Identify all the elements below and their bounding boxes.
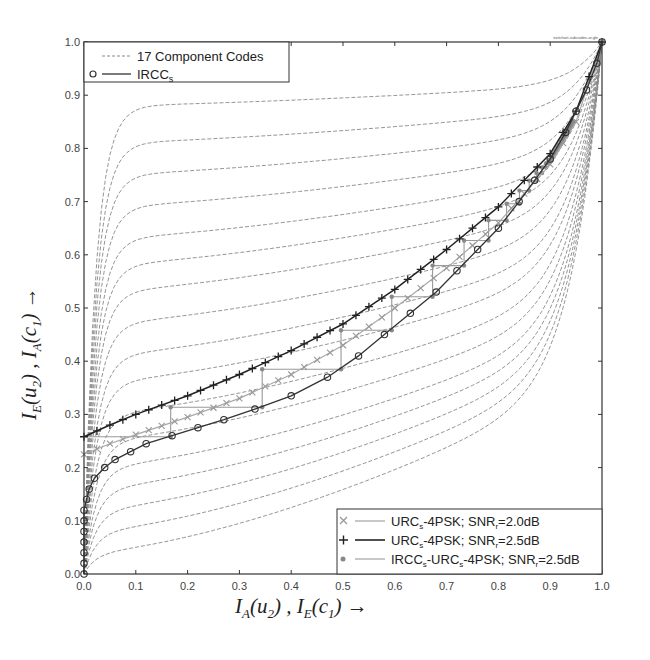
x-tick-label: 1.0 (594, 580, 609, 592)
x-tick-label: 0.9 (543, 580, 558, 592)
x-tick-label: 0.2 (180, 580, 195, 592)
y-tick-label: 0.0 (65, 568, 80, 580)
y-axis-ticks: 0.00.10.20.30.40.50.60.70.80.91.0 (65, 36, 602, 580)
x-tick-label: 0.1 (128, 580, 143, 592)
y-tick-label: 0.9 (65, 89, 80, 101)
decoding-trajectory (84, 119, 576, 439)
plot-frame (84, 42, 602, 574)
legend-urc-2.0db: URCs-4PSK; SNRr=2.0dB (391, 514, 540, 531)
y-tick-label: 0.3 (65, 408, 80, 420)
x-tick-label: 0.7 (439, 580, 454, 592)
legend-urc-2.5db: URCs-4PSK; SNRr=2.5dB (391, 533, 540, 550)
corner-note: exitchart-subcodes-ar.gle (553, 35, 598, 40)
legend-top: 17 Component Codes IRCCs (84, 42, 289, 84)
urc-2.0db-curve (81, 39, 605, 457)
y-tick-label: 0.5 (65, 302, 80, 314)
x-axis-label: IA(u2) , IE(c1) → (234, 594, 368, 621)
y-tick-label: 0.2 (65, 462, 80, 474)
ircc-curve (81, 39, 605, 577)
x-tick-label: 0.5 (335, 580, 350, 592)
x-tick-label: 0.3 (232, 580, 247, 592)
y-tick-label: 1.0 (65, 36, 80, 48)
y-tick-label: 0.8 (65, 142, 80, 154)
legend-bottom: URCs-4PSK; SNRr=2.0dB URCs-4PSK; SNRr=2.… (337, 509, 602, 574)
x-tick-label: 0.6 (387, 580, 402, 592)
x-tick-label: 0.8 (491, 580, 506, 592)
legend-component-codes: 17 Component Codes (137, 49, 264, 64)
y-tick-label: 0.4 (65, 355, 80, 367)
y-tick-label: 0.1 (65, 515, 80, 527)
y-axis-label: IE(u2) , IA(c1) → (17, 287, 44, 421)
legend-ircc: IRCC (137, 67, 169, 82)
component-code-curves (84, 42, 602, 574)
svg-text:IRCCs: IRCCs (137, 67, 174, 84)
exit-chart: 0.00.10.20.30.40.50.60.70.80.91.0 0.00.1… (0, 0, 650, 660)
legend-trajectory: IRCCs-URCs-4PSK; SNRr=2.5dB (391, 552, 580, 569)
y-tick-label: 0.6 (65, 249, 80, 261)
x-tick-label: 0.4 (284, 580, 299, 592)
y-tick-label: 0.7 (65, 196, 80, 208)
x-tick-label: 0.0 (76, 580, 91, 592)
urc-2.5db-curve (80, 38, 606, 441)
